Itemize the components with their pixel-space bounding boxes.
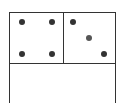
vertical-divider [63, 12, 64, 63]
horizontal-divider [9, 63, 116, 64]
pip [101, 51, 107, 57]
pip [19, 51, 25, 57]
pip [49, 19, 55, 25]
pip [70, 19, 76, 25]
pip [19, 19, 25, 25]
pip [86, 35, 92, 41]
pip [49, 51, 55, 57]
